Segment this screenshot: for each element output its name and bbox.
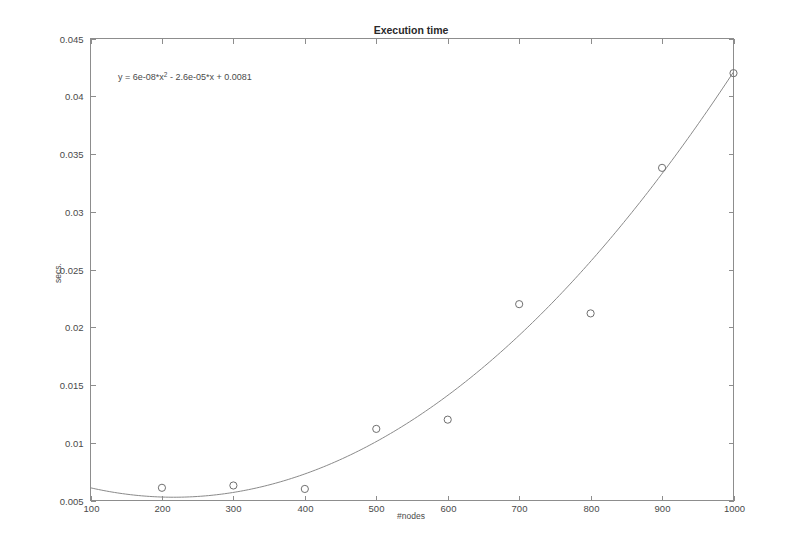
chart-title: Execution time — [374, 24, 449, 36]
execution-time-chart: Execution time 1002003004005006007008009… — [0, 0, 785, 550]
x-tick-label-900: 900 — [655, 503, 671, 514]
x-tick-label-800: 800 — [584, 503, 600, 514]
y-tick-label-0.03: 0.03 — [65, 207, 84, 218]
y-tick-label-0.045: 0.045 — [60, 34, 84, 45]
y-tick-label-0.02: 0.02 — [65, 322, 84, 333]
x-tick-label-600: 600 — [441, 503, 457, 514]
x-tick-label-200: 200 — [155, 503, 171, 514]
y-tick-label-0.01: 0.01 — [65, 438, 84, 449]
x-tick-label-1000: 1000 — [724, 503, 745, 514]
x-axis-label: #nodes — [397, 511, 425, 521]
x-tick-label-400: 400 — [298, 503, 314, 514]
y-tick-label-0.035: 0.035 — [60, 149, 84, 160]
x-tick-label-100: 100 — [84, 503, 100, 514]
x-tick-label-500: 500 — [369, 503, 385, 514]
figure-canvas: Execution time 1002003004005006007008009… — [0, 0, 785, 550]
x-tick-label-700: 700 — [512, 503, 528, 514]
y-axis-label: secs. — [53, 263, 63, 283]
chart-background — [0, 0, 785, 550]
equation-annotation: y = 6e-08*x2 - 2.6e-05*x + 0.0081 — [118, 71, 252, 83]
y-tick-label-0.04: 0.04 — [65, 91, 84, 102]
x-tick-label-300: 300 — [226, 503, 242, 514]
y-tick-label-0.025: 0.025 — [60, 265, 84, 276]
y-tick-label-0.015: 0.015 — [60, 380, 84, 391]
y-tick-label-0.005: 0.005 — [60, 496, 84, 507]
